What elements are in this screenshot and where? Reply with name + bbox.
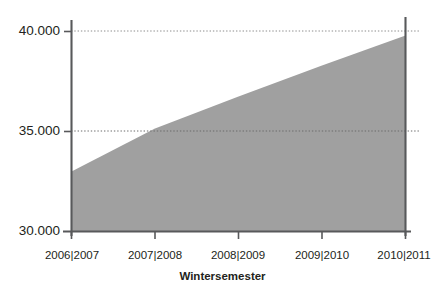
x-axis-title: Wintersemester xyxy=(0,271,445,283)
y-tick-label-40000: 40.000 xyxy=(12,24,60,38)
y-tick-label-30000: 30.000 xyxy=(12,224,60,238)
area-series-fill xyxy=(72,36,406,232)
x-tick-label-2007-2008: 2007|2008 xyxy=(128,250,182,262)
x-tick-label-2008-2009: 2008|2009 xyxy=(211,250,265,262)
x-tick-label-2006-2007: 2006|2007 xyxy=(45,250,99,262)
x-tick-label-2010-2011: 2010|2011 xyxy=(377,250,430,262)
area-chart: 40.000 35.000 30.000 2006|2007 2007|2008… xyxy=(0,0,445,300)
y-tick-label-35000: 35.000 xyxy=(12,124,60,138)
x-tick-label-2009-2010: 2009|2010 xyxy=(295,250,349,262)
